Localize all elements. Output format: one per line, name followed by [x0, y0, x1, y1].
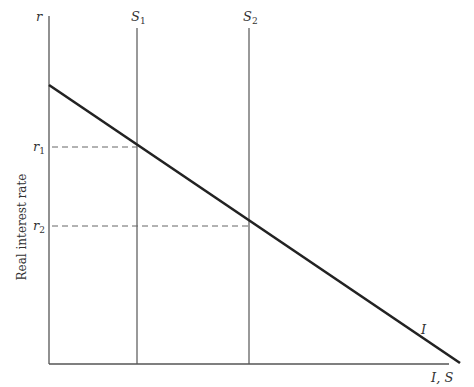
r1-label: r1: [33, 139, 45, 156]
investment-curve: [49, 85, 460, 363]
y-axis-title: Real interest rate: [15, 167, 29, 287]
diagram-canvas: r S1 S2 r1 r2 I I, S Real interest rate: [0, 0, 474, 387]
y-axis-label: r: [36, 9, 42, 24]
diagram-svg: [0, 0, 474, 387]
investment-curve-label: I: [421, 322, 426, 337]
s2-label: S2: [243, 9, 258, 26]
s1-label: S1: [131, 9, 146, 26]
x-axis-label: I, S: [431, 370, 453, 385]
r2-label: r2: [33, 218, 45, 235]
